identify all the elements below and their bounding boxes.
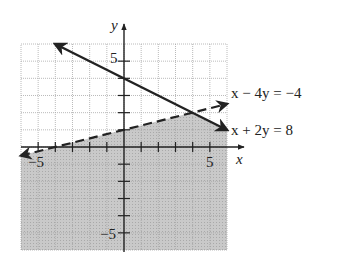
graph: y x 5 −5 −5 5 x − 4y = −4 x + 2y = 8 (0, 0, 343, 268)
tick-label-x-5: 5 (206, 154, 214, 170)
tick-label-y-5: 5 (110, 50, 118, 66)
y-axis-label: y (109, 17, 118, 33)
equation-label-dashed: x − 4y = −4 (231, 85, 302, 101)
x-axis-label: x (235, 151, 243, 167)
equation-label-solid: x + 2y = 8 (231, 122, 293, 138)
tick-label-x-neg5: −5 (28, 154, 44, 170)
tick-label-y-neg5: −5 (100, 226, 116, 242)
